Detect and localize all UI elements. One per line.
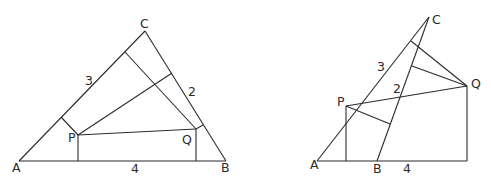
right-perp-q-bc xyxy=(412,66,467,86)
left-label-p: P xyxy=(68,130,76,145)
right-label-side-ab: 4 xyxy=(403,161,411,176)
right-perp-q-ac xyxy=(411,41,467,86)
right-label-side-bc: 2 xyxy=(393,81,401,96)
right-label-side-ac: 3 xyxy=(377,59,385,74)
right-label-p: P xyxy=(337,94,345,109)
left-label-b: B xyxy=(221,160,230,175)
right-figure: A B C P Q 3 2 4 xyxy=(310,12,481,176)
left-side-ac xyxy=(19,31,145,161)
right-segment-pq xyxy=(346,86,467,106)
right-label-b: B xyxy=(373,161,382,176)
right-label-q: Q xyxy=(471,76,481,91)
left-label-side-bc: 2 xyxy=(188,84,196,99)
left-figure: A B C P Q 3 2 4 xyxy=(12,16,230,176)
left-label-side-ab: 4 xyxy=(131,161,139,176)
diagram-canvas: A B C P Q 3 2 4 A B C P Q 3 2 4 xyxy=(0,0,491,190)
left-label-a: A xyxy=(12,160,21,175)
right-label-a: A xyxy=(310,157,319,172)
left-perp-q-bc xyxy=(196,125,203,129)
right-side-ac xyxy=(317,17,429,161)
left-label-c: C xyxy=(140,16,149,31)
right-label-c: C xyxy=(432,12,441,27)
left-label-side-ac: 3 xyxy=(85,73,93,88)
left-segment-pq xyxy=(78,129,196,135)
left-perp-q-ac xyxy=(125,52,196,129)
left-label-q: Q xyxy=(182,132,192,147)
right-side-bc xyxy=(377,17,429,161)
